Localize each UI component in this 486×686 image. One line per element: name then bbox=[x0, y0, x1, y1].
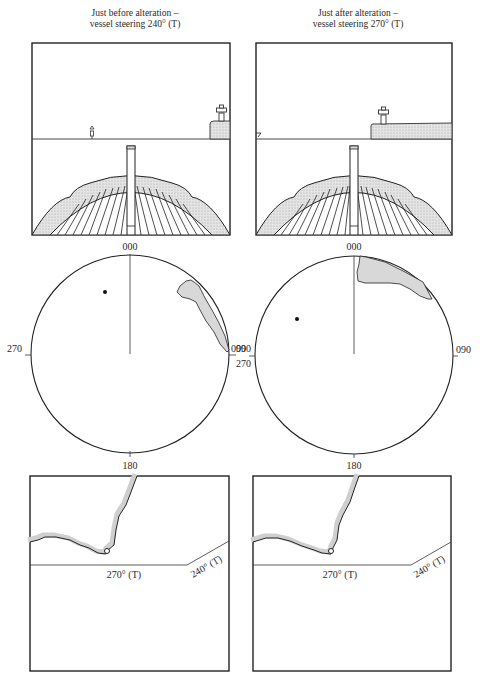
compass-left-180: 180 bbox=[123, 460, 138, 471]
compass-left-270: 270 bbox=[7, 343, 22, 354]
chart-right: 270° (T) 240° (T) bbox=[251, 474, 451, 671]
course-label-270: 270° (T) bbox=[323, 569, 357, 581]
buoy-echo bbox=[103, 290, 107, 294]
mast bbox=[350, 146, 358, 235]
radar-display-right bbox=[249, 256, 458, 458]
mast bbox=[127, 146, 135, 235]
radar-display-left bbox=[25, 254, 236, 457]
lighthouse-symbol bbox=[105, 549, 110, 554]
compass-right-180: 180 bbox=[347, 460, 362, 471]
compass-right-090: 090 bbox=[456, 344, 471, 355]
bridge-view-right bbox=[256, 43, 452, 235]
compass-right-000: 000 bbox=[347, 241, 362, 252]
compass-right-270: 270 bbox=[236, 358, 251, 369]
compass-left-000: 000 bbox=[123, 241, 138, 252]
buoy-echo bbox=[295, 317, 299, 321]
compass-right-090-upper: 090 bbox=[236, 343, 251, 354]
course-label-270: 270° (T) bbox=[107, 569, 141, 581]
chart-left: 270° (T) 240° (T) bbox=[28, 474, 229, 671]
lighthouse-symbol bbox=[329, 549, 334, 554]
bridge-view-left bbox=[32, 43, 230, 235]
